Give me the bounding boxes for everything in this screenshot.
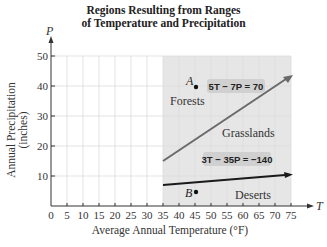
svg-text:20: 20 (37, 140, 49, 152)
svg-text:60: 60 (238, 209, 250, 221)
region-label-deserts: Deserts (235, 188, 271, 202)
chart-plot: 0 5 10 15 20 25 30 35 40 45 50 55 60 65 … (0, 0, 327, 247)
svg-text:55: 55 (222, 209, 234, 221)
svg-text:25: 25 (126, 209, 138, 221)
svg-text:30: 30 (37, 110, 49, 122)
equation-label-2: 3T − 35P = −140 (202, 152, 273, 166)
svg-text:35: 35 (158, 209, 170, 221)
svg-text:65: 65 (254, 209, 266, 221)
svg-text:(inches): (inches) (17, 111, 30, 148)
region-label-grasslands: Grasslands (222, 126, 275, 140)
svg-text:75: 75 (286, 209, 298, 221)
svg-text:45: 45 (190, 209, 202, 221)
svg-text:50: 50 (206, 209, 218, 221)
y-axis-title: Annual Precipitation (inches) (5, 82, 30, 178)
svg-text:10: 10 (78, 209, 90, 221)
svg-text:20: 20 (110, 209, 122, 221)
x-tick-labels: 0 5 10 15 20 25 30 35 40 45 50 55 60 65 … (48, 209, 297, 221)
svg-text:30: 30 (142, 209, 154, 221)
svg-text:50: 50 (37, 50, 49, 62)
svg-text:3T − 35P = −140: 3T − 35P = −140 (202, 154, 273, 165)
svg-text:40: 40 (37, 80, 49, 92)
x-variable-label: T (316, 199, 324, 213)
svg-text:10: 10 (37, 170, 49, 182)
svg-text:B: B (185, 186, 193, 200)
y-variable-label: P (45, 24, 54, 38)
y-tick-labels: 10 20 30 40 50 (37, 50, 49, 182)
svg-text:5T − 7P = 70: 5T − 7P = 70 (209, 81, 264, 92)
svg-text:A: A (185, 74, 194, 88)
svg-text:70: 70 (270, 209, 282, 221)
region-label-forests: Forests (170, 94, 205, 108)
equation-label-1: 5T − 7P = 70 (207, 79, 265, 93)
svg-text:0: 0 (48, 209, 54, 221)
svg-text:15: 15 (94, 209, 106, 221)
svg-text:5: 5 (64, 209, 70, 221)
svg-text:40: 40 (174, 209, 186, 221)
x-axis-title: Average Annual Temperature (°F) (92, 224, 248, 237)
